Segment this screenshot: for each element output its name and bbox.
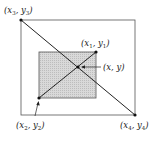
point-intersection (76, 65, 79, 68)
label-p2: (x2, y2) (16, 120, 45, 131)
label-p3: (x3, y3) (4, 5, 33, 16)
line-intersection-diagram: (x3, y3) (x1, y1) (x, y) (x2, y2) (x4, y… (0, 0, 158, 144)
label-p1: (x1, y1) (81, 38, 110, 49)
label-p4: (x4, y4) (120, 120, 149, 131)
point-p2 (37, 96, 40, 99)
point-p3 (19, 18, 22, 21)
point-p1 (94, 50, 97, 53)
label-intersection: (x, y) (103, 62, 125, 72)
point-p4 (133, 113, 136, 116)
arrowhead-p2-icon (36, 101, 40, 106)
